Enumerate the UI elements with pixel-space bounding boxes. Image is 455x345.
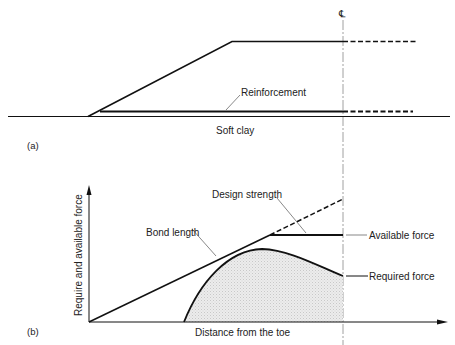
- soil-label: Soft clay: [216, 125, 254, 136]
- embankment-outline: [88, 42, 343, 117]
- centerline-symbol: ℄: [338, 8, 346, 19]
- bond-length-label: Bond length: [146, 227, 199, 238]
- reinforcement-leader: [226, 95, 240, 110]
- x-axis-arrow-icon: [437, 320, 448, 325]
- available-force-label: Available force: [369, 230, 435, 241]
- y-axis-label: Require and available force: [73, 194, 84, 316]
- x-axis-label: Distance from the toe: [195, 327, 290, 338]
- required-force-label: Required force: [369, 271, 435, 282]
- required-force-area: [184, 249, 343, 322]
- y-axis-arrow-icon: [87, 185, 92, 195]
- design-strength-label: Design strength: [212, 189, 282, 200]
- panel-label-b: (b): [27, 326, 39, 337]
- panel-label-a: (a): [27, 140, 39, 151]
- reinforcement-label: Reinforcement: [241, 87, 306, 98]
- design-strength-leader: [277, 198, 306, 233]
- bond-length-dashed: [270, 199, 343, 235]
- diagram-canvas: ℄ Reinforcement Soft clay (a): [0, 0, 455, 345]
- figure-b: Design strength Bond length Available fo…: [27, 185, 448, 338]
